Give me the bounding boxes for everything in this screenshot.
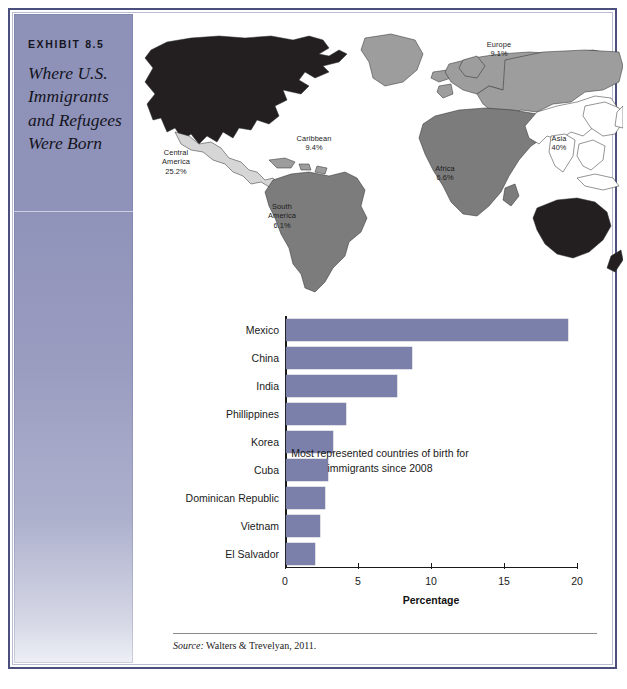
map-label-europe: Europe 9.1% [475, 40, 523, 59]
exhibit-number-label: EXHIBIT 8.5 [28, 38, 125, 50]
x-tick-mark [577, 563, 578, 569]
bar-category-label: China [252, 352, 279, 364]
bar-category-label: Dominican Republic [186, 492, 279, 504]
bar-category-label: Korea [251, 436, 279, 448]
exhibit-sidebar: EXHIBIT 8.5 Where U.S. Immigrants and Re… [14, 14, 133, 663]
sidebar-divider [14, 211, 133, 212]
map-region-caribbean-islands [269, 158, 327, 174]
bar-row: Vietnam [286, 515, 320, 537]
map-label-africa: Africa 6.6% [423, 164, 467, 183]
map-label-caribbean: Caribbean 9.4% [283, 134, 345, 153]
exhibit-content: Caribbean 9.4% Central America 25.2% Sou… [133, 14, 611, 663]
map-region-southeast-asia [577, 140, 605, 170]
bar-category-label: Cuba [254, 464, 279, 476]
x-tick-mark [504, 563, 505, 569]
bar [286, 403, 346, 425]
bar-row: Phillippines [286, 403, 346, 425]
bar-row: El Salvador [286, 543, 315, 565]
x-axis-title: Percentage [285, 594, 577, 606]
map-label-asia: Asia 40% [539, 134, 579, 153]
bar-row: Mexico [286, 319, 568, 341]
bar [286, 375, 397, 397]
bar-category-label: Mexico [246, 324, 279, 336]
x-tick-mark [358, 563, 359, 569]
bar-category-label: Vietnam [241, 520, 279, 532]
x-tick-mark [431, 563, 432, 569]
source-note: Source: Walters & Trevelyan, 2011. [173, 633, 597, 651]
bar-category-label: El Salvador [225, 548, 279, 560]
map-label-central-america: Central America 25.2% [145, 148, 207, 176]
exhibit-title: Where U.S. Immigrants and Refugees Were … [28, 62, 127, 155]
bar-category-label: Phillippines [226, 408, 279, 420]
x-tick-mark [285, 563, 286, 569]
bar-chart: MexicoChinaIndiaPhillippinesKoreaCubaDom… [133, 306, 623, 614]
source-keyword: Source: [173, 640, 204, 651]
map-region-australia [533, 198, 611, 258]
x-tick-label: 20 [571, 575, 583, 587]
bar [286, 319, 568, 341]
source-divider [173, 633, 597, 634]
world-map: Caribbean 9.4% Central America 25.2% Sou… [133, 20, 623, 305]
bar [286, 543, 315, 565]
x-tick-label: 10 [425, 575, 437, 587]
x-tick-label: 15 [498, 575, 510, 587]
bar [286, 347, 412, 369]
map-label-south-america: South America 6.1% [253, 202, 311, 230]
bar-category-label: India [256, 380, 279, 392]
bar [286, 515, 320, 537]
chart-plot-area: MexicoChinaIndiaPhillippinesKoreaCubaDom… [285, 316, 577, 568]
map-region-indonesia [577, 174, 619, 190]
exhibit-figure: EXHIBIT 8.5 Where U.S. Immigrants and Re… [8, 8, 617, 669]
x-tick-label: 5 [355, 575, 361, 587]
map-region-north-america [145, 36, 347, 144]
map-region-uk [437, 84, 453, 98]
chart-annotation: Most represented countries of birth for … [285, 446, 475, 476]
bar-row: Dominican Republic [286, 487, 325, 509]
x-tick-label: 0 [282, 575, 288, 587]
bar [286, 487, 325, 509]
map-region-greenland [361, 34, 423, 86]
map-region-madagascar [503, 184, 519, 206]
source-citation: Walters & Trevelyan, 2011. [204, 640, 317, 651]
bar-row: India [286, 375, 397, 397]
source-text: Source: Walters & Trevelyan, 2011. [173, 640, 597, 651]
map-region-south-america [265, 172, 367, 292]
map-region-new-zealand [607, 250, 623, 272]
bar-row: China [286, 347, 412, 369]
